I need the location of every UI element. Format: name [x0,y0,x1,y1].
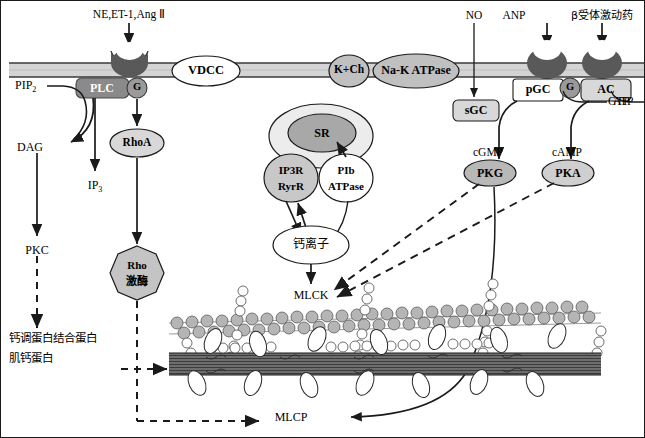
troponin-label: 肌钙蛋白 [9,353,53,365]
rho-kinase-label-line1: Rho [127,260,147,271]
ip3r-ryrr-channel[interactable] [264,154,318,202]
calcium-label: 钙离子 [293,238,329,250]
beta-receptor[interactable] [582,40,622,79]
pgc-label: pGC [526,83,551,95]
ip3-text: IP [88,178,99,192]
camp-label: cAMP [552,147,582,159]
myosin-filament [169,353,601,375]
g-protein-alpha-label: G [133,82,141,93]
rho-kinase[interactable] [110,246,164,300]
actin-myosin-apparatus [169,279,606,400]
pka-label: PKA [555,167,580,179]
kch-label: K+Ch [334,64,364,76]
vdcc-label: VDCC [188,64,224,77]
sgc-label: sGC [465,104,488,116]
plb-atpase-label: ATPase [328,181,364,192]
pkg-label: PKG [477,167,503,179]
calmodulin-binding-protein-label: 钙调蛋白结合蛋白 [9,333,97,345]
ip3-label: IP3 [88,179,103,194]
sr-label: SR [314,127,329,139]
ligand-anp-label: ANP [502,10,525,22]
cgmp-label: cGMP [473,147,503,159]
ryrr-label: RyrR [278,181,304,192]
plb-atpase-pump[interactable] [319,154,373,202]
plc-label: PLC [90,82,114,94]
alpha-receptor[interactable] [111,42,148,77]
pathway-diagram: NE,ET-1,Ang Ⅱ NO ANP β受体激动药 VDCC K+Ch Na… [0,0,645,438]
ligand-beta-agonist-label: β受体激动药 [571,10,633,21]
ligand-no-label: NO [466,10,483,22]
rhoa-label: RhoA [123,137,152,149]
ligand-gpcr-label: NE,ET-1,Ang Ⅱ [93,9,165,21]
mlcp-label: MLCP [275,411,308,423]
nak-atpase-label: Na-K ATPase [381,64,450,76]
ip3r-label: IP3R [279,165,303,176]
pip2-text: PIP [15,78,32,92]
pip2-subscript: 2 [32,85,36,94]
ac-label: AC [597,83,614,95]
pkc-label: PKC [25,244,48,256]
rho-kinase-label-line2: 激酶 [126,276,148,287]
g-protein-beta-label: G [566,82,574,93]
plb-label: PIb [337,165,354,176]
anp-receptor[interactable] [527,40,567,79]
ip3-subscript: 3 [98,185,102,194]
mlck-label: MLCK [294,289,329,301]
pip2-label: PIP2 [15,79,36,94]
diagram-canvas [1,1,645,438]
dag-label: DAG [17,141,43,153]
atp-label: ATP [613,96,633,108]
